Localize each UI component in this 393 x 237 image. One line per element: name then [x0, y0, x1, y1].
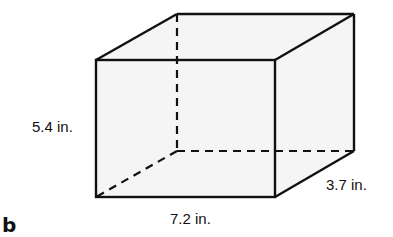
front-face: [96, 60, 275, 197]
depth-label: 3.7 in.: [326, 176, 367, 193]
figure-letter-label: b: [2, 213, 16, 237]
prism-diagram: 5.4 in. 7.2 in. 3.7 in. b: [0, 0, 393, 237]
length-label: 7.2 in.: [170, 210, 211, 227]
height-label: 5.4 in.: [32, 118, 73, 135]
